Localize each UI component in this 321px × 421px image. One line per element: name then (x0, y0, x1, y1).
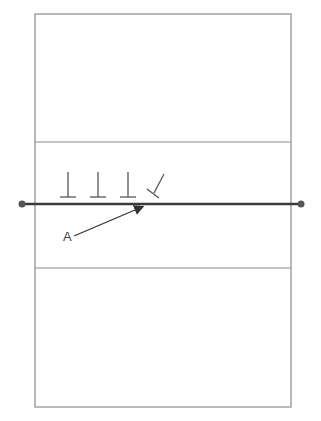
attack-arrow (74, 207, 142, 236)
blocker-3-icon (120, 172, 136, 197)
blocker-1-icon (60, 172, 76, 197)
volleyball-court-diagram: A (0, 0, 321, 421)
net-post-left (19, 201, 26, 208)
blocker-4-icon (147, 174, 164, 198)
net-post-right (298, 201, 305, 208)
blocker-2-icon (90, 172, 106, 197)
court-boundary (35, 14, 291, 407)
attacker-label: A (63, 229, 72, 244)
